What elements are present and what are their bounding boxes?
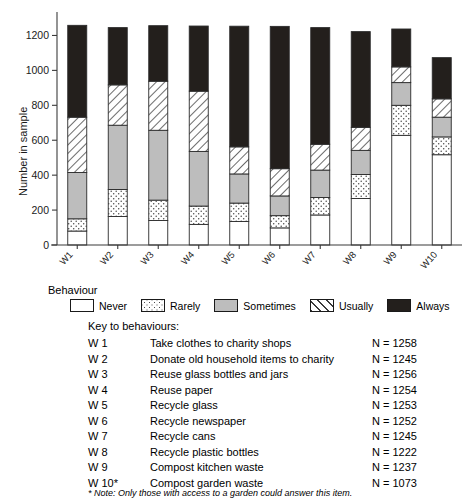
key-row-code: W 2 xyxy=(88,352,150,368)
y-axis-title: Number in sample xyxy=(17,107,29,196)
key-table: W 1Take clothes to charity shopsN = 1258… xyxy=(88,336,417,491)
y-tick-label: 200 xyxy=(31,204,49,216)
bar-segment xyxy=(108,217,127,245)
key-row-description: Recycle cans xyxy=(150,429,372,445)
bar-segment xyxy=(311,170,330,197)
bar-segment xyxy=(230,174,249,203)
key-row-description: Recycle plastic bottles xyxy=(150,445,372,461)
legend-label-sometimes: Sometimes xyxy=(243,300,296,312)
x-tick-label: W2 xyxy=(98,249,116,267)
bar-segment xyxy=(351,32,370,128)
bar-segment xyxy=(149,130,168,200)
y-tick-label: 400 xyxy=(31,169,49,181)
x-tick-label: W3 xyxy=(138,249,156,267)
bar-segment xyxy=(68,173,87,219)
chart-canvas: Number in sample 020040060080010001200 W… xyxy=(0,0,470,282)
x-tick-label: W1 xyxy=(57,249,75,267)
bar-segment xyxy=(68,117,87,172)
bar-segment xyxy=(351,174,370,198)
key-row-description: Compost kitchen waste xyxy=(150,460,372,476)
key-row-description: Reuse paper xyxy=(150,383,372,399)
chart-legend: Behaviour Never Rarely Sometimes Usually… xyxy=(0,282,470,322)
bar-segment xyxy=(270,26,289,168)
always-swatch xyxy=(387,299,411,312)
key-row-code: W 1 xyxy=(88,336,150,352)
bar-segment xyxy=(392,135,411,245)
bar-segment xyxy=(351,150,370,174)
key-row: W 2Donate old household items to charity… xyxy=(88,352,417,368)
bar-segment xyxy=(270,196,289,216)
key-row: W 4Reuse paperN = 1254 xyxy=(88,383,417,399)
bar-segment xyxy=(189,206,208,224)
never-swatch xyxy=(70,299,94,312)
bar-segment xyxy=(189,224,208,245)
bar-segment xyxy=(392,67,411,83)
key-row-code: W 3 xyxy=(88,367,150,383)
bar-segment xyxy=(108,125,127,189)
bar-segment xyxy=(432,117,451,137)
key-row: W 3Reuse glass bottles and jarsN = 1256 xyxy=(88,367,417,383)
legend-item-sometimes: Sometimes xyxy=(214,299,296,312)
bar-segment xyxy=(149,221,168,245)
bar-segment xyxy=(392,83,411,106)
key-row-description: Recycle newspaper xyxy=(150,414,372,430)
bar-segment xyxy=(230,26,249,147)
key-row-n: N = 1073 xyxy=(372,476,417,492)
bar-segment xyxy=(351,127,370,150)
key-row-code: W 9 xyxy=(88,460,150,476)
bar-segment xyxy=(432,137,451,155)
x-tick-label: W4 xyxy=(179,249,197,267)
key-row: W 6Recycle newspaperN = 1252 xyxy=(88,414,417,430)
bar-segment xyxy=(311,28,330,145)
bar-segment xyxy=(149,26,168,82)
bar-segment xyxy=(189,26,208,91)
x-tick-label: W7 xyxy=(300,249,318,267)
key-row-description: Take clothes to charity shops xyxy=(150,336,372,352)
legend-items: Never Rarely Sometimes Usually Always xyxy=(70,299,464,312)
x-tick-label: W8 xyxy=(341,249,359,267)
bar-segment xyxy=(189,151,208,206)
key-row: W 9Compost kitchen wasteN = 1237 xyxy=(88,460,417,476)
y-tick-label: 800 xyxy=(31,99,49,111)
bar-segment xyxy=(149,81,168,130)
x-axis-ticks xyxy=(77,245,442,249)
bar-segment xyxy=(311,215,330,245)
x-tick-label: W6 xyxy=(260,249,278,267)
bar-segment xyxy=(189,91,208,151)
bar-segment xyxy=(149,200,168,220)
x-tick-label: W9 xyxy=(381,249,399,267)
bar-segment xyxy=(311,198,330,215)
key-row: W 8Recycle plastic bottlesN = 1222 xyxy=(88,445,417,461)
bar-segment xyxy=(392,29,411,67)
bar-segment xyxy=(270,216,289,228)
bar-segment xyxy=(68,25,87,117)
x-tick-label: W10 xyxy=(418,249,439,271)
bar-segment xyxy=(270,169,289,196)
key-row-n: N = 1237 xyxy=(372,460,417,476)
bar-group xyxy=(68,25,452,245)
key-row-n: N = 1253 xyxy=(372,398,417,414)
key-row-description: Donate old household items to charity xyxy=(150,352,372,368)
bar-segment xyxy=(392,105,411,135)
y-tick-label: 600 xyxy=(31,134,49,146)
key-row-code: W 6 xyxy=(88,414,150,430)
key-row-code: W 5 xyxy=(88,398,150,414)
key-row-n: N = 1254 xyxy=(372,383,417,399)
key-row-description: Reuse glass bottles and jars xyxy=(150,367,372,383)
key-row-n: N = 1258 xyxy=(372,336,417,352)
key-row: W 7Recycle cansN = 1245 xyxy=(88,429,417,445)
bar-segment xyxy=(351,199,370,245)
key-row-n: N = 1252 xyxy=(372,414,417,430)
key-row-n: N = 1245 xyxy=(372,429,417,445)
key-row: W 1Take clothes to charity shopsN = 1258 xyxy=(88,336,417,352)
bar-segment xyxy=(432,155,451,245)
legend-item-rarely: Rarely xyxy=(141,299,200,312)
legend-item-usually: Usually xyxy=(310,299,373,312)
legend-label-rarely: Rarely xyxy=(170,300,200,312)
key-row-n: N = 1222 xyxy=(372,445,417,461)
key-title: Key to behaviours: xyxy=(88,320,179,332)
key-row: W 5Recycle glassN = 1253 xyxy=(88,398,417,414)
legend-item-never: Never xyxy=(70,299,127,312)
bar-segment xyxy=(270,228,289,245)
bar-segment xyxy=(432,99,451,117)
